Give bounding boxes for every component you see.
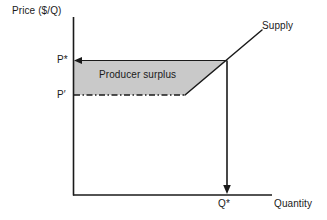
quantity-star-arrowhead-icon — [223, 185, 231, 194]
chart-canvas — [0, 0, 327, 220]
price-star-label: P* — [57, 54, 68, 65]
quantity-star-label: Q* — [218, 198, 230, 209]
price-prime-label: P′ — [57, 89, 66, 100]
y-axis-label: Price ($/Q) — [12, 5, 61, 16]
producer-surplus-label: Producer surplus — [99, 69, 176, 80]
x-axis-label: Quantity — [274, 198, 312, 209]
supply-curve-label: Supply — [262, 20, 293, 31]
producer-surplus-figure: Price ($/Q) Quantity P* P′ Q* Supply Pro… — [0, 0, 327, 220]
